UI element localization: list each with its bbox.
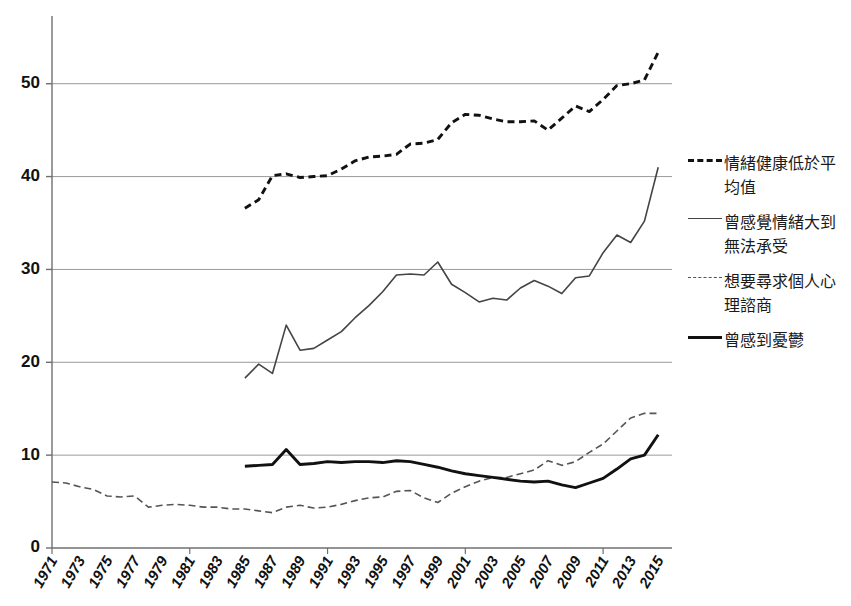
x-axis-tick-label: 2011 [580, 553, 611, 590]
x-axis-tick-label: 1989 [277, 552, 309, 590]
legend-entry-3[interactable]: 曾感到憂鬱 [688, 327, 804, 351]
legend-label-1: 曾感覺情緒大到無法承受 [724, 209, 851, 257]
legend-entry-1[interactable]: 曾感覺情緒大到無法承受 [688, 209, 851, 257]
x-axis-tick-labels: 1971197319751977197919811983198519871989… [29, 552, 667, 591]
legend-label-3: 曾感到憂鬱 [724, 327, 804, 351]
x-axis-tick-label: 1985 [222, 552, 254, 590]
x-axis-tick-label: 2001 [442, 553, 474, 591]
x-axis-tick-label: 2013 [607, 552, 639, 591]
x-axis-ticks [52, 548, 603, 554]
x-axis-tick-label: 1983 [195, 552, 227, 590]
x-axis-tick-label: 1997 [387, 552, 419, 590]
x-axis-tick-label: 1987 [250, 552, 282, 590]
chart-container: 01020304050 1971197319751977197919811983… [0, 0, 851, 606]
x-axis-tick-label: 2007 [525, 552, 557, 591]
x-axis-tick-label: 2015 [635, 552, 667, 591]
legend-swatch-solid-thin-icon [688, 211, 724, 227]
data-series-group [52, 52, 658, 513]
series-line-1 [245, 167, 658, 378]
x-axis-tick-label: 1999 [415, 552, 447, 590]
legend-label-2: 想要尋求個人心理諮商 [724, 268, 851, 316]
legend-swatch-solid-thick-icon [688, 329, 724, 345]
x-axis-tick-label: 1971 [29, 553, 60, 590]
x-axis-tick-label: 1991 [305, 553, 336, 590]
legend-entry-0[interactable]: 情緒健康低於平均值 [688, 150, 851, 198]
gridlines [52, 84, 672, 455]
series-line-3 [245, 435, 658, 488]
legend-label-0: 情緒健康低於平均值 [724, 150, 851, 198]
y-axis-tick-label: 0 [31, 537, 40, 556]
y-axis-tick-label: 30 [21, 259, 40, 278]
x-axis-tick-label: 2005 [497, 552, 529, 591]
y-axis-tick-label: 50 [21, 73, 40, 92]
x-axis-tick-label: 1995 [360, 552, 392, 590]
x-axis-tick-label: 1979 [139, 552, 171, 590]
x-axis-tick-label: 1975 [84, 552, 116, 590]
x-axis-tick-label: 1993 [332, 552, 364, 590]
legend-entry-2[interactable]: 想要尋求個人心理諮商 [688, 268, 851, 316]
x-axis-tick-label: 1981 [167, 553, 198, 590]
y-axis-tick-label: 40 [21, 166, 40, 185]
x-axis-tick-label: 1977 [112, 552, 144, 590]
x-axis-tick-label: 1973 [57, 552, 89, 590]
y-axis-tick-labels: 01020304050 [21, 73, 52, 556]
y-axis-tick-label: 10 [21, 445, 40, 464]
legend-swatch-dashed-thin-icon [688, 270, 724, 286]
series-line-0 [245, 52, 658, 208]
x-axis-tick-label: 2003 [470, 552, 502, 591]
legend-swatch-dashed-thick-icon [688, 152, 724, 168]
y-axis-tick-label: 20 [21, 352, 40, 371]
x-axis-tick-label: 2009 [552, 552, 584, 591]
